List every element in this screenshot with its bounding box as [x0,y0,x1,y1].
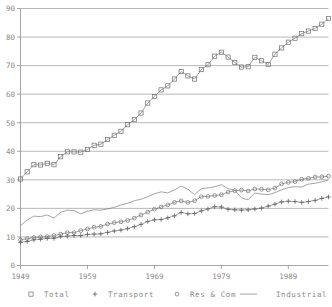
data-point-plus [125,226,130,231]
y-tick-label: 20 [6,204,16,213]
data-point-plus [172,214,177,219]
data-point-plus [253,207,258,212]
x-axis-ticks [21,266,289,270]
data-point-plus [159,217,164,222]
legend-item-res-com[interactable]: Res & Com [175,290,236,299]
x-tick-label: 1959 [78,272,96,281]
data-point-plus [112,229,117,234]
data-point-square [29,292,33,296]
x-tick-label: 1989 [279,272,297,281]
data-point-plus [105,230,110,235]
data-point-plus [92,232,97,237]
data-point-circle [175,292,179,296]
series-polyline [21,18,329,178]
legend-item-total[interactable]: Total [29,290,70,299]
x-axis-tick-labels: 19491959196919791989 [11,272,297,281]
data-point-plus [299,200,304,205]
data-series [18,16,331,244]
series-res-com [19,174,331,241]
legend-label: Res & Com [190,290,236,299]
data-point-plus [259,206,264,211]
chart-legend: TotalTransportRes & ComIndustrial [29,290,327,299]
x-tick-label: 1949 [11,272,29,281]
legend-label: Total [44,290,70,299]
y-tick-label: 80 [6,33,16,42]
data-point-plus [286,199,291,204]
legend-label: Industrial [276,290,327,299]
data-point-plus [99,232,104,237]
data-point-plus [279,200,284,205]
data-point-plus [179,210,184,215]
line-chart: 0102030405060708090 19491959196919791989… [0,0,332,307]
data-point-plus [139,222,144,227]
data-point-plus [152,218,157,223]
y-tick-label: 70 [6,61,16,70]
data-point-plus [273,202,278,207]
data-point-plus [306,199,311,204]
data-point-plus [93,292,98,297]
legend-label: Transport [108,290,154,299]
data-point-plus [186,212,191,217]
x-tick-label: 1979 [212,272,230,281]
y-tick-label: 60 [6,90,16,99]
y-tick-label: 40 [6,147,16,156]
series-total [18,16,330,181]
y-tick-label: 90 [6,4,16,13]
data-point-plus [313,198,318,203]
legend-item-industrial[interactable]: Industrial [240,290,327,299]
legend-item-transport[interactable]: Transport [93,290,154,299]
data-point-plus [145,219,150,224]
data-point-plus [266,204,271,209]
data-point-plus [199,209,204,214]
y-tick-label: 50 [6,119,16,128]
data-point-plus [326,195,331,200]
y-tick-label: 0 [10,261,15,270]
y-tick-label: 10 [6,233,16,242]
data-point-plus [119,228,124,233]
data-point-plus [293,199,298,204]
x-tick-label: 1969 [145,272,163,281]
data-point-plus [85,232,90,237]
data-point-plus [192,211,197,216]
data-point-plus [320,196,325,201]
y-axis-tick-labels: 0102030405060708090 [6,4,16,270]
data-point-plus [132,224,137,229]
data-point-plus [226,207,231,212]
data-point-plus [166,216,171,221]
y-tick-label: 30 [6,176,16,185]
series-polyline [21,197,329,242]
chart-container: 0102030405060708090 19491959196919791989… [0,0,332,307]
data-point-plus [206,207,211,212]
y-axis-ticks [17,9,21,266]
